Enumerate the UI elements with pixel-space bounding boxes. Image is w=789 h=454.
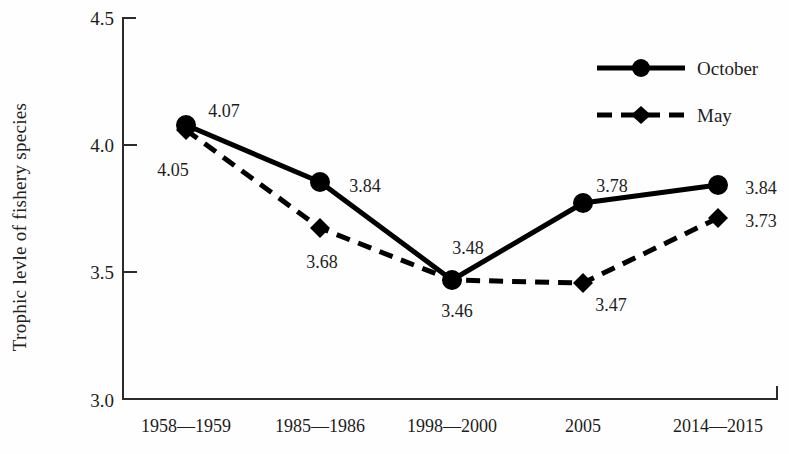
value-label-october-3: 3.78 <box>596 177 628 195</box>
legend-sample-solid-circle-icon <box>595 57 687 79</box>
y-tick-label-3.0: 3.0 <box>58 391 114 410</box>
value-label-may-4: 3.73 <box>745 212 777 230</box>
value-label-may-2: 3.46 <box>441 302 473 320</box>
series-marker-october-3 <box>573 193 593 213</box>
legend: October May <box>595 50 785 135</box>
value-label-october-4: 3.84 <box>745 179 777 197</box>
value-label-october-0: 4.07 <box>208 102 240 120</box>
legend-label-october: October <box>697 59 758 78</box>
value-label-october-2: 3.48 <box>452 239 484 257</box>
chart-page: Trophic levle of fishery species 4.5 4.0… <box>0 0 789 454</box>
series-line-may <box>186 130 718 283</box>
value-label-may-3: 3.47 <box>595 296 627 314</box>
y-tick-label-3.5: 3.5 <box>58 263 114 282</box>
series-marker-may-1 <box>310 218 330 238</box>
x-tick-label-3: 2005 <box>565 417 601 435</box>
series-marker-october-1 <box>310 172 330 192</box>
legend-sample-dashed-diamond-icon <box>595 104 687 126</box>
y-axis-title: Trophic levle of fishery species <box>0 0 40 454</box>
series-marker-may-4 <box>708 208 728 228</box>
series-marker-october-0 <box>176 115 196 135</box>
x-tick-label-2: 1998—2000 <box>407 417 497 435</box>
x-tick-label-0: 1958—1959 <box>141 417 231 435</box>
legend-label-may: May <box>697 106 732 125</box>
y-tick-label-4.0: 4.0 <box>58 136 114 155</box>
legend-item-may[interactable]: May <box>595 103 732 127</box>
series-marker-october-2 <box>442 270 462 290</box>
legend-item-october[interactable]: October <box>595 56 758 80</box>
x-tick-label-1: 1985—1986 <box>275 417 365 435</box>
value-label-may-1: 3.68 <box>306 253 338 271</box>
series-marker-october-4 <box>708 175 728 195</box>
value-label-october-1: 3.84 <box>349 177 381 195</box>
y-tick-label-4.5: 4.5 <box>58 9 114 28</box>
x-tick-label-4: 2014—2015 <box>673 417 763 435</box>
series-marker-may-3 <box>573 273 593 293</box>
value-label-may-0: 4.05 <box>157 161 189 179</box>
